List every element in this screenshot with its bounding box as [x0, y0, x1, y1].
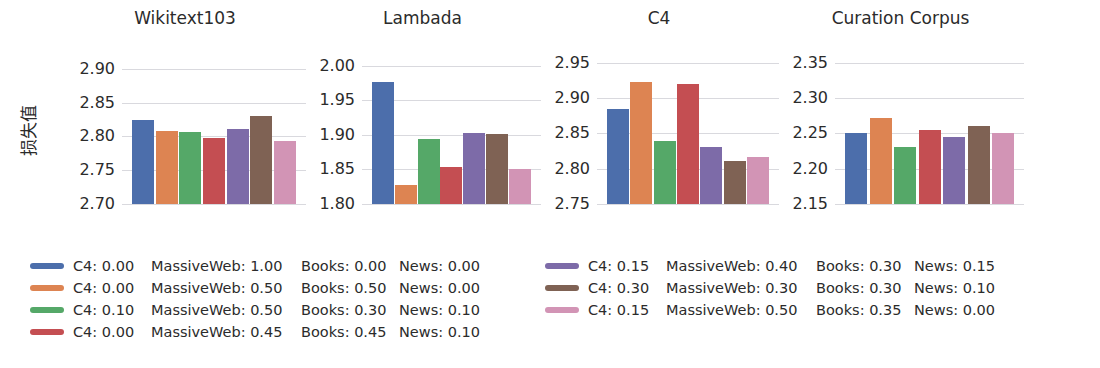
legend-row[interactable]: C4: 0.00MassiveWeb: 0.45Books: 0.45News:… — [30, 321, 485, 343]
legend-massiveweb-weight: MassiveWeb: 0.30 — [666, 280, 816, 296]
subplot-lambada: Lambada 1.801.851.901.952.00 — [300, 0, 545, 238]
legend-massiveweb-weight: MassiveWeb: 0.40 — [666, 258, 816, 274]
legend-news-weight: News: 0.10 — [399, 324, 485, 340]
subplot-c4: C4 2.752.802.852.902.95 — [535, 0, 783, 238]
legend-massiveweb-weight: MassiveWeb: 0.45 — [151, 324, 301, 340]
y-tick-label: 2.75 — [554, 196, 590, 212]
bar-group — [597, 52, 779, 204]
bar — [395, 185, 417, 204]
bar — [250, 116, 272, 204]
legend-books-weight: Books: 0.50 — [301, 280, 399, 296]
plot-area: 2.752.802.852.902.95 — [597, 52, 779, 204]
legend-news-weight: News: 0.15 — [914, 258, 1000, 274]
bar — [677, 84, 699, 204]
subplot-title: C4 — [535, 8, 783, 28]
bar — [607, 109, 629, 204]
legend-color-swatch — [545, 285, 579, 291]
legend-row[interactable]: C4: 0.10MassiveWeb: 0.50Books: 0.30News:… — [30, 299, 485, 321]
legend-c4-weight: C4: 0.00 — [73, 324, 151, 340]
y-tick-label: 2.20 — [792, 161, 828, 177]
y-tick-label: 2.35 — [792, 55, 828, 71]
bar — [440, 167, 462, 204]
legend-c4-weight: C4: 0.30 — [588, 280, 666, 296]
y-tick-label: 2.85 — [554, 125, 590, 141]
bar-group — [122, 52, 306, 204]
y-tick-label: 2.70 — [79, 196, 115, 212]
gridline — [835, 204, 1024, 205]
subplot-title: Wikitext103 — [60, 8, 310, 28]
bar — [894, 147, 916, 204]
legend-books-weight: Books: 0.30 — [816, 280, 914, 296]
legend-color-swatch — [30, 285, 64, 291]
y-axis-label: 损失值 — [14, 78, 40, 182]
bar — [654, 141, 676, 204]
y-tick-label: 2.90 — [79, 61, 115, 77]
bar — [968, 126, 990, 204]
bar — [463, 133, 485, 204]
legend-c4-weight: C4: 0.15 — [588, 258, 666, 274]
gridline — [362, 204, 541, 205]
legend-c4-weight: C4: 0.15 — [588, 302, 666, 318]
bar — [919, 130, 941, 204]
legend-news-weight: News: 0.00 — [914, 302, 1000, 318]
legend-news-weight: News: 0.10 — [914, 280, 1000, 296]
bar — [943, 137, 965, 204]
gridline — [122, 204, 306, 205]
y-tick-label: 1.85 — [319, 161, 355, 177]
subplot-wikitext103: Wikitext103 2.702.752.802.852.90 — [60, 0, 310, 238]
bar — [992, 133, 1014, 204]
bar — [870, 118, 892, 204]
y-tick-label: 2.80 — [554, 161, 590, 177]
legend-books-weight: Books: 0.30 — [301, 302, 399, 318]
legend-news-weight: News: 0.00 — [399, 258, 485, 274]
legend-left-block: C4: 0.00MassiveWeb: 1.00Books: 0.00News:… — [30, 255, 485, 343]
bar — [274, 141, 296, 205]
bar — [509, 169, 531, 204]
y-tick-label: 2.85 — [79, 95, 115, 111]
bar — [203, 138, 225, 204]
bar — [724, 161, 746, 204]
legend-color-swatch — [30, 329, 64, 335]
bar — [486, 134, 508, 204]
bar — [156, 131, 178, 204]
legend-row[interactable]: C4: 0.30MassiveWeb: 0.30Books: 0.30News:… — [545, 277, 1000, 299]
legend-books-weight: Books: 0.30 — [816, 258, 914, 274]
legend-c4-weight: C4: 0.10 — [73, 302, 151, 318]
bar — [630, 82, 652, 204]
y-tick-label: 2.00 — [319, 58, 355, 74]
legend-row[interactable]: C4: 0.15MassiveWeb: 0.40Books: 0.30News:… — [545, 255, 1000, 277]
bar — [845, 133, 867, 204]
legend-color-swatch — [545, 263, 579, 269]
legend-right-block: C4: 0.15MassiveWeb: 0.40Books: 0.30News:… — [545, 255, 1000, 321]
plot-area: 1.801.851.901.952.00 — [362, 52, 541, 204]
subplot-title: Lambada — [300, 8, 545, 28]
bar — [132, 120, 154, 204]
bar-group — [835, 52, 1024, 204]
figure-canvas: 损失值 Wikitext103 2.702.752.802.852.90 Lam… — [0, 0, 1100, 368]
legend-row[interactable]: C4: 0.15MassiveWeb: 0.50Books: 0.35News:… — [545, 299, 1000, 321]
y-tick-label: 1.95 — [319, 92, 355, 108]
legend-massiveweb-weight: MassiveWeb: 0.50 — [666, 302, 816, 318]
y-tick-label: 2.30 — [792, 90, 828, 106]
legend-news-weight: News: 0.10 — [399, 302, 485, 318]
legend-books-weight: Books: 0.45 — [301, 324, 399, 340]
legend-color-swatch — [545, 307, 579, 313]
y-tick-label: 2.15 — [792, 196, 828, 212]
legend-c4-weight: C4: 0.00 — [73, 258, 151, 274]
legend-books-weight: Books: 0.35 — [816, 302, 914, 318]
legend-news-weight: News: 0.00 — [399, 280, 485, 296]
legend-row[interactable]: C4: 0.00MassiveWeb: 0.50Books: 0.50News:… — [30, 277, 485, 299]
plot-area: 2.702.752.802.852.90 — [122, 52, 306, 204]
legend-c4-weight: C4: 0.00 — [73, 280, 151, 296]
legend-massiveweb-weight: MassiveWeb: 0.50 — [151, 302, 301, 318]
bar — [179, 132, 201, 204]
bar — [700, 147, 722, 204]
legend-massiveweb-weight: MassiveWeb: 0.50 — [151, 280, 301, 296]
subplot-curation-corpus: Curation Corpus 2.152.202.252.302.35 — [773, 0, 1028, 238]
bar — [418, 139, 440, 204]
y-tick-label: 1.80 — [319, 196, 355, 212]
legend-row[interactable]: C4: 0.00MassiveWeb: 1.00Books: 0.00News:… — [30, 255, 485, 277]
subplot-title: Curation Corpus — [773, 8, 1028, 28]
legend-books-weight: Books: 0.00 — [301, 258, 399, 274]
y-tick-label: 1.90 — [319, 127, 355, 143]
